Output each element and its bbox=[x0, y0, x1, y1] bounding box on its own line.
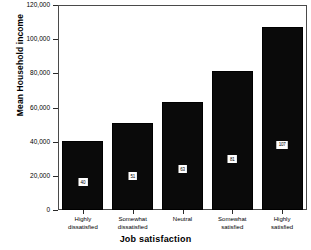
y-axis-tick-label: 80,000 bbox=[30, 68, 50, 77]
bar[interactable]: 40 bbox=[62, 141, 103, 210]
y-axis-tick-label: 100,000 bbox=[27, 34, 51, 43]
bar-value-label: 63 bbox=[178, 165, 187, 173]
bar-value-label: 81 bbox=[228, 155, 237, 163]
bar-value-label: 51 bbox=[128, 172, 137, 180]
y-axis-tick-label: 60,000 bbox=[30, 103, 50, 112]
x-axis-tick-label: Somewhat dissatisfied bbox=[108, 216, 158, 231]
x-axis-tick-mark bbox=[183, 210, 184, 214]
x-axis-tick-mark bbox=[282, 210, 283, 214]
y-axis-tick-label: 40,000 bbox=[30, 137, 50, 146]
x-axis-tick-label: Highly dissatisfied bbox=[58, 216, 108, 231]
x-axis-tick-label: Somewhat satisfied bbox=[207, 216, 257, 231]
bar-value-label: 40 bbox=[79, 178, 88, 186]
bar[interactable]: 63 bbox=[162, 102, 203, 210]
x-axis-tick-mark bbox=[133, 210, 134, 214]
y-axis-title: Mean Household income bbox=[15, 0, 25, 145]
bar[interactable]: 51 bbox=[112, 123, 153, 210]
x-axis-tick-label: Neutral bbox=[158, 216, 208, 224]
x-axis-tick-mark bbox=[232, 210, 233, 214]
x-axis-tick-label: Highly satisfied bbox=[257, 216, 307, 231]
bar[interactable]: 81 bbox=[212, 71, 253, 210]
bar-value-label: 107 bbox=[277, 141, 288, 149]
bar[interactable]: 107 bbox=[262, 27, 303, 210]
y-axis-tick-label: 120,000 bbox=[27, 0, 51, 9]
y-axis-tick-label: 20,000 bbox=[30, 171, 50, 180]
bar-chart: Mean Household income 020,00040,00060,00… bbox=[0, 0, 311, 250]
x-axis-title: Job satisfaction bbox=[0, 234, 311, 244]
bars-layer: 40516381107 bbox=[58, 5, 307, 210]
x-axis-tick-mark bbox=[83, 210, 84, 214]
y-axis-tick-label: 0 bbox=[46, 205, 50, 214]
y-axis-tick-mark bbox=[53, 210, 58, 211]
